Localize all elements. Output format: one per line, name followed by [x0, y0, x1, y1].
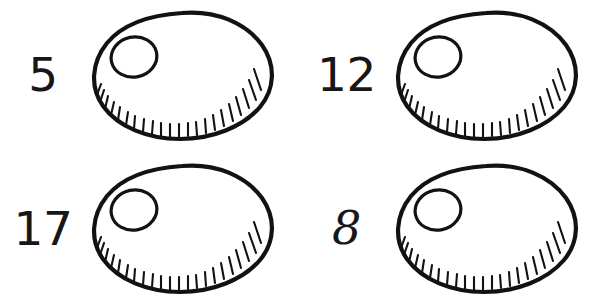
worksheet-item: 8: [304, 154, 607, 307]
shell-drawing: [390, 160, 586, 300]
shell-figure: [390, 160, 586, 300]
worksheet-item: 5: [0, 0, 304, 154]
shell-figure: [86, 7, 282, 147]
items-grid: 5: [0, 0, 607, 307]
item-number-label: 8: [304, 205, 390, 255]
shell-figure: [86, 160, 282, 300]
worksheet-canvas: 5: [0, 0, 607, 307]
item-number-label: 12: [304, 51, 390, 102]
worksheet-item: 17: [0, 154, 304, 307]
item-number-label: 17: [0, 205, 86, 256]
item-number-label: 5: [0, 51, 86, 102]
shell-drawing: [86, 160, 282, 300]
worksheet-item: 12: [304, 0, 607, 154]
shell-figure: [390, 7, 586, 147]
shell-drawing: [86, 7, 282, 147]
shell-drawing: [390, 7, 586, 147]
